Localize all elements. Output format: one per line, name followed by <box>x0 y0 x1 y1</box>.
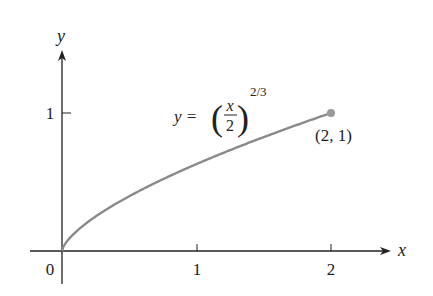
x-tick-label-2: 2 <box>327 260 336 279</box>
chart-svg: 0 1 2 1 x y y = ( x 2 ) 2/3 (2, 1) <box>0 0 433 296</box>
y-axis-label: y <box>55 26 65 46</box>
x-axis-label: x <box>397 240 406 260</box>
right-paren: ) <box>237 98 249 138</box>
curve-line <box>62 113 331 251</box>
chart-figure: 0 1 2 1 x y y = ( x 2 ) 2/3 (2, 1) <box>0 0 433 296</box>
origin-label: 0 <box>46 260 55 279</box>
equation-lhs: y = <box>172 107 197 126</box>
endpoint-marker <box>327 109 335 117</box>
equation-exponent: 2/3 <box>250 84 267 99</box>
point-label: (2, 1) <box>315 126 352 145</box>
equation-numerator: x <box>225 97 233 114</box>
x-tick-label-1: 1 <box>193 260 202 279</box>
equation-annotation: y = ( x 2 ) 2/3 <box>172 84 267 138</box>
equation-denominator: 2 <box>226 117 234 134</box>
left-paren: ( <box>211 98 223 138</box>
y-tick-label-1: 1 <box>46 104 55 123</box>
